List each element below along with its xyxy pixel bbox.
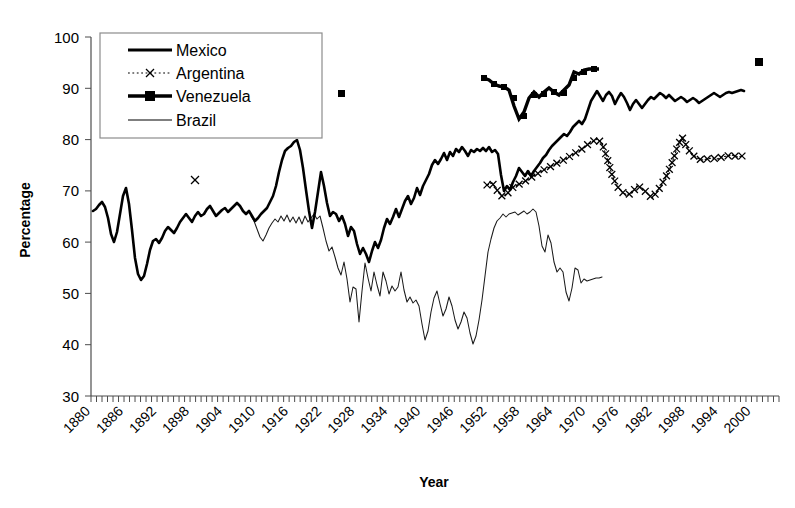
marker-x-icon — [566, 153, 573, 160]
marker-x-icon — [673, 146, 680, 153]
marker-x-icon — [732, 153, 739, 160]
y-tick-label: 70 — [62, 182, 79, 199]
marker-x-icon — [663, 173, 670, 180]
series-line-argentina — [487, 137, 742, 198]
marker-x-icon — [602, 150, 609, 157]
marker-x-icon — [498, 192, 505, 199]
marker-x-icon — [596, 138, 603, 145]
x-tick-label: 1904 — [192, 403, 225, 436]
x-tick-label: 1928 — [324, 403, 357, 436]
marker-x-icon — [578, 146, 585, 153]
y-tick-label: 50 — [62, 285, 79, 302]
y-tick-label: 100 — [54, 29, 79, 46]
marker-x-icon — [516, 181, 523, 188]
marker-x-icon — [669, 159, 676, 166]
isolated-marker-venezuela-2002 — [755, 58, 763, 66]
legend-swatch-venezuela-square-icon — [145, 91, 155, 101]
marker-x-icon — [572, 149, 579, 156]
y-axis-ticks — [85, 37, 91, 396]
marker-x-icon — [553, 160, 560, 167]
isolated-marker-venezuela-1927 — [338, 90, 345, 97]
x-tick-label: 1970 — [555, 403, 588, 436]
series-line-brazil — [251, 209, 602, 344]
x-tick-label: 1976 — [588, 403, 621, 436]
marker-x-icon — [535, 170, 542, 177]
y-tick-label: 90 — [62, 80, 79, 97]
x-tick-label: 1964 — [522, 403, 555, 436]
x-tick-label: 1994 — [687, 403, 720, 436]
chart-canvas: 100 90 80 70 60 50 40 30 Percentage 1880… — [0, 0, 795, 508]
marker-x-icon — [560, 157, 567, 164]
marker-x-icon — [541, 166, 548, 173]
x-tick-label: 1886 — [93, 403, 126, 436]
marker-x-icon — [604, 157, 611, 164]
x-tick-label: 1988 — [654, 403, 687, 436]
marker-x-icon — [608, 171, 615, 178]
x-tick-label: 2000 — [720, 403, 753, 436]
marker-x-icon — [584, 141, 591, 148]
percentage-by-year-chart: 100 90 80 70 60 50 40 30 Percentage 1880… — [0, 0, 795, 508]
x-tick-label: 1958 — [489, 403, 522, 436]
y-tick-label: 60 — [62, 234, 79, 251]
series-markers-argentina — [484, 135, 746, 200]
x-axis-tick-labels: 1880188618921898190419101916192219281934… — [60, 403, 754, 436]
marker-x-icon — [494, 187, 501, 194]
marker-x-icon — [590, 138, 597, 145]
x-tick-label: 1892 — [126, 403, 159, 436]
x-tick-label: 1940 — [390, 403, 423, 436]
legend-label-argentina: Argentina — [176, 65, 245, 82]
marker-x-icon — [682, 141, 689, 148]
y-tick-label: 80 — [62, 131, 79, 148]
y-tick-label: 40 — [62, 336, 79, 353]
marker-x-icon — [718, 154, 725, 161]
marker-x-icon — [620, 189, 627, 196]
marker-x-icon — [676, 139, 683, 146]
marker-x-icon — [522, 177, 529, 184]
x-tick-label: 1880 — [60, 403, 93, 436]
marker-x-icon — [660, 179, 667, 186]
legend: Mexico Argentina Venezuela Brazil — [100, 33, 322, 138]
x-tick-label: 1910 — [225, 403, 258, 436]
legend-label-mexico: Mexico — [176, 42, 227, 59]
x-tick-label: 1982 — [621, 403, 654, 436]
marker-x-icon — [656, 185, 663, 192]
marker-x-icon — [671, 152, 678, 159]
marker-x-icon — [600, 144, 607, 151]
x-tick-label: 1916 — [258, 403, 291, 436]
y-axis-title: Percentage — [17, 182, 33, 258]
isolated-marker-argentina-1904 — [191, 176, 199, 184]
x-tick-label: 1952 — [456, 403, 489, 436]
legend-label-venezuela: Venezuela — [176, 88, 251, 105]
marker-x-icon — [606, 164, 613, 171]
x-tick-label: 1898 — [159, 403, 192, 436]
marker-x-icon — [691, 153, 698, 160]
x-tick-label: 1922 — [291, 403, 324, 436]
marker-x-icon — [547, 163, 554, 170]
marker-x-icon — [490, 181, 497, 188]
x-axis-minor-ticks — [91, 396, 779, 402]
x-axis-title: Year — [419, 474, 449, 490]
legend-label-brazil: Brazil — [176, 112, 216, 129]
y-tick-label: 30 — [62, 388, 79, 405]
marker-x-icon — [611, 178, 618, 185]
x-tick-label: 1934 — [357, 403, 390, 436]
marker-x-icon — [679, 135, 686, 142]
x-tick-label: 1946 — [423, 403, 456, 436]
marker-x-icon — [666, 166, 673, 173]
